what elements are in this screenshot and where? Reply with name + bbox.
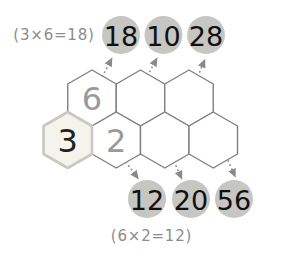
hexagon-value: 6 <box>82 80 102 118</box>
bottom-equation-label: (6×2=12) <box>111 227 192 245</box>
hexagon-multiplication-diagram: (3×6=18) (6×2=12) 6 3 2 18 10 28 <box>0 0 284 258</box>
product-value: 28 <box>189 21 223 52</box>
hexagon-value-highlighted: 3 <box>58 122 78 160</box>
product-value: 12 <box>130 185 164 216</box>
top-equation-label: (3×6=18) <box>13 26 94 44</box>
hexagon-value: 2 <box>106 122 126 160</box>
worksheet-figure: (3×6=18) (6×2=12) 6 3 2 18 10 28 <box>0 0 284 258</box>
product-value: 20 <box>174 185 208 216</box>
product-value: 18 <box>104 21 138 52</box>
product-value: 10 <box>146 21 180 52</box>
product-value: 56 <box>217 185 251 216</box>
